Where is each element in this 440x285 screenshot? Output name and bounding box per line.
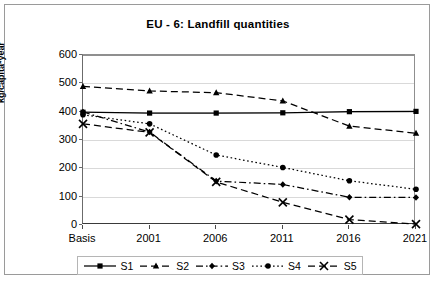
legend-swatch-s4 (251, 260, 285, 271)
y-tick-label: 600 (43, 49, 77, 59)
x-tickmark (82, 225, 83, 229)
x-tick-label: 2011 (252, 232, 312, 244)
legend-swatch-s1 (83, 260, 117, 271)
x-tickmark (282, 225, 283, 229)
legend-label-s5: S5 (344, 260, 357, 272)
legend-entry-s1[interactable]: S1 (80, 260, 136, 272)
legend-label-s2: S2 (176, 260, 189, 272)
x-tick-label: 2016 (318, 232, 378, 244)
series-s3 (80, 109, 419, 201)
gridline (83, 197, 414, 198)
legend-swatch-s3 (195, 260, 229, 271)
legend-label-s4: S4 (288, 260, 301, 272)
legend-label-s1: S1 (120, 260, 133, 272)
series-s4 (80, 112, 419, 192)
y-tick-label: 400 (43, 106, 77, 116)
legend-swatch-s5 (307, 260, 341, 271)
x-tick-label: Basis (52, 232, 112, 244)
y-tick-label: 0 (43, 219, 77, 229)
legend-entry-s4[interactable]: S4 (248, 260, 304, 272)
chart-legend: S1S2S3S4S5 (77, 256, 363, 275)
y-tick-label: 100 (43, 191, 77, 201)
chart-frame: EU - 6: Landfill quantities kg/capita*ye… (4, 4, 430, 275)
y-tick-label: 500 (43, 77, 77, 87)
legend-label-s3: S3 (232, 260, 245, 272)
gridline (83, 112, 414, 113)
gridline (83, 83, 414, 84)
x-tickmark (415, 225, 416, 229)
legend-swatch-s2 (139, 260, 173, 271)
gridline (83, 168, 414, 169)
y-tick-label: 200 (43, 162, 77, 172)
y-tick-label: 300 (43, 134, 77, 144)
x-tickmark (348, 225, 349, 229)
x-tick-label: 2001 (119, 232, 179, 244)
legend-entry-s3[interactable]: S3 (192, 260, 248, 272)
legend-entry-s5[interactable]: S5 (304, 260, 360, 272)
series-s5 (79, 120, 420, 228)
plot-area (82, 54, 415, 224)
gridline (83, 140, 414, 141)
x-tick-label: 2006 (185, 232, 245, 244)
legend-entry-s2[interactable]: S2 (136, 260, 192, 272)
gridline (83, 55, 414, 56)
x-tick-label: 2021 (385, 232, 440, 244)
x-tickmark (149, 225, 150, 229)
series-s2 (80, 83, 419, 136)
y-axis-title: kg/capita*year (0, 0, 6, 103)
x-tickmark (215, 225, 216, 229)
